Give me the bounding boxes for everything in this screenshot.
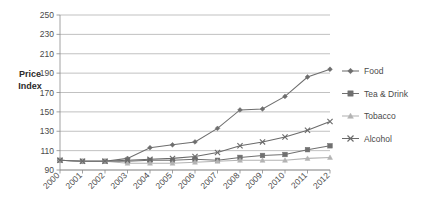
y-axis-title-line2: Index: [18, 81, 42, 91]
y-axis-tick-label: 150: [40, 107, 54, 117]
legend-label-tobacco: Tobacco: [364, 111, 396, 121]
legend-label-food: Food: [364, 66, 384, 76]
data-point-marker-square: [328, 143, 333, 148]
legend-label-tea-drink: Tea & Drink: [364, 89, 409, 99]
y-axis-tick-labels-group: 90110130150170190210230250: [40, 10, 54, 175]
data-point-marker-square: [348, 91, 353, 96]
y-axis-tick-label: 230: [40, 29, 54, 39]
data-point-marker-square: [305, 147, 310, 152]
line-chart-figure: 90110130150170190210230250 2000200120022…: [0, 0, 431, 214]
y-axis-tick-label: 250: [40, 10, 54, 20]
data-point-marker-square: [283, 152, 288, 157]
y-axis-tick-label: 130: [40, 126, 54, 136]
chart-canvas: 90110130150170190210230250 2000200120022…: [0, 0, 431, 214]
y-axis-tick-label: 210: [40, 49, 54, 59]
y-axis-tick-label: 110: [40, 146, 54, 156]
legend-label-alcohol: Alcohol: [364, 134, 392, 144]
y-axis-tick-label: 170: [40, 88, 54, 98]
y-axis-title-line1: Price: [19, 69, 41, 79]
data-point-marker-square: [260, 153, 265, 158]
y-axis-tick-label: 190: [40, 68, 54, 78]
